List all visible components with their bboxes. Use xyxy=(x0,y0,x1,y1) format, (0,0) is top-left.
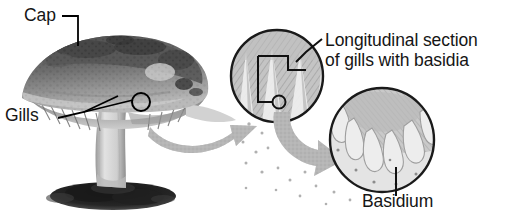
mushroom-basidium-diagram: Cap Gills Longitudinal sectionof gills w… xyxy=(0,0,526,221)
cap-texture xyxy=(22,35,212,114)
magnification-circle-basidium xyxy=(330,88,440,196)
cap-leader-line xyxy=(62,16,78,46)
label-basidium: Basidium xyxy=(362,192,433,212)
magnification-circle-gill-section xyxy=(231,30,326,122)
label-cap: Cap xyxy=(24,6,56,26)
label-gills: Gills xyxy=(5,106,39,126)
label-longitudinal-section: Longitudinal sectionof gills with basidi… xyxy=(325,31,478,70)
mushroom-cap xyxy=(22,35,212,114)
longitudinal-line-2: of gills with basidia xyxy=(325,50,469,70)
mushroom-photo xyxy=(22,35,236,210)
magnify-arrow-1 xyxy=(148,125,257,153)
longitudinal-line-1: Longitudinal section xyxy=(325,30,478,50)
